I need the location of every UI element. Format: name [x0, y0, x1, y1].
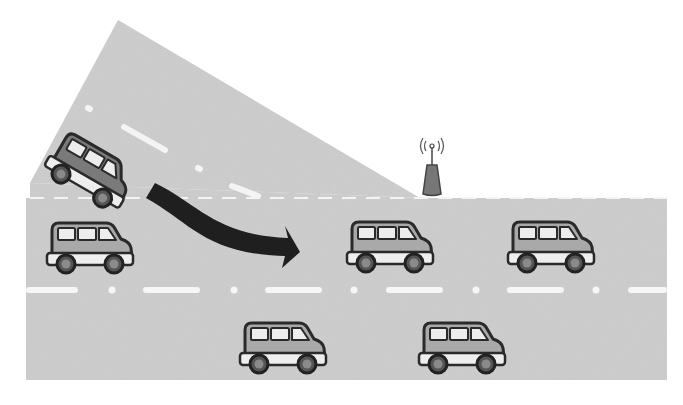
- highway-merge-diagram: [0, 0, 683, 405]
- roadside-unit-antenna-icon: [421, 138, 444, 196]
